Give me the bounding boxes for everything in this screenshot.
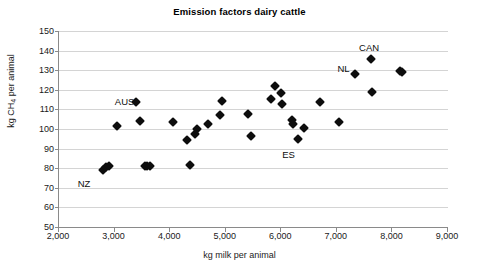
y-axis-tick-mark xyxy=(55,129,59,130)
y-axis-tick-mark xyxy=(55,149,59,150)
gridline xyxy=(59,51,448,52)
data-point xyxy=(182,135,192,145)
data-point xyxy=(217,96,227,106)
y-axis-title-prefix: kg CH xyxy=(6,103,16,128)
gridline xyxy=(59,188,448,189)
y-axis-tick-mark xyxy=(55,90,59,91)
y-axis-tick-label: 130 xyxy=(32,65,54,75)
data-point xyxy=(135,116,145,126)
gridline xyxy=(59,31,448,32)
y-axis-tick-label: 150 xyxy=(32,26,54,36)
gridline xyxy=(59,109,448,110)
gridline xyxy=(59,70,448,71)
y-axis-tick-mark xyxy=(55,109,59,110)
y-axis-tick-mark xyxy=(55,168,59,169)
data-point xyxy=(266,94,276,104)
gridline xyxy=(59,149,448,150)
x-axis-tick-label: 8,000 xyxy=(369,231,413,241)
gridline xyxy=(59,90,448,91)
y-axis-title: kg CH4 per animal xyxy=(6,16,16,166)
y-axis-tick-mark xyxy=(55,70,59,71)
x-axis-tick-label: 2,000 xyxy=(36,231,80,241)
y-axis-title-subscript: 4 xyxy=(10,99,17,103)
y-axis-tick-label: 70 xyxy=(32,183,54,193)
x-axis-tick-label: 3,000 xyxy=(92,231,136,241)
series-annotation-nz: NZ xyxy=(78,177,91,188)
x-axis-tick-label: 6,000 xyxy=(258,231,302,241)
y-axis-tick-label: 90 xyxy=(32,144,54,154)
x-axis-tick-label: 4,000 xyxy=(147,231,191,241)
y-axis-title-suffix: per animal xyxy=(6,54,16,99)
data-point xyxy=(243,109,253,119)
data-point xyxy=(334,117,344,127)
data-point xyxy=(366,54,376,64)
y-axis-tick-label: 110 xyxy=(32,104,54,114)
series-annotation-aus: AUS xyxy=(115,95,135,106)
data-point xyxy=(215,111,225,121)
data-point xyxy=(277,99,287,109)
x-axis-title: kg milk per animal xyxy=(0,250,479,260)
y-axis-tick-label: 80 xyxy=(32,163,54,173)
y-axis-tick-label: 120 xyxy=(32,85,54,95)
x-axis-tick-label: 9,000 xyxy=(425,231,469,241)
gridline xyxy=(59,168,448,169)
plot-area: NZAUSESNLCAN xyxy=(58,31,448,228)
series-annotation-nl: NL xyxy=(337,63,349,74)
y-axis-tick-mark xyxy=(55,51,59,52)
data-point xyxy=(203,119,213,129)
series-annotation-es: ES xyxy=(282,148,295,159)
data-point xyxy=(299,123,309,133)
y-axis-tick-mark xyxy=(55,207,59,208)
y-axis-tick-mark xyxy=(55,31,59,32)
data-point xyxy=(367,87,377,97)
scatter-chart: Emission factors dairy cattle kg CH4 per… xyxy=(0,0,479,274)
y-axis-tick-labels: 5060708090100110120130140150 xyxy=(26,31,54,228)
data-point xyxy=(315,97,325,107)
y-axis-tick-label: 100 xyxy=(32,124,54,134)
gridline xyxy=(59,207,448,208)
y-axis-tick-mark xyxy=(55,188,59,189)
chart-title: Emission factors dairy cattle xyxy=(0,6,479,17)
x-axis-tick-label: 5,000 xyxy=(203,231,247,241)
x-axis-tick-label: 7,000 xyxy=(314,231,358,241)
x-axis-tick-labels: 2,0003,0004,0005,0006,0007,0008,0009,000 xyxy=(58,231,448,245)
data-point xyxy=(246,131,256,141)
y-axis-tick-label: 60 xyxy=(32,202,54,212)
data-point xyxy=(169,117,179,127)
y-axis-tick-label: 140 xyxy=(32,46,54,56)
data-point xyxy=(293,134,303,144)
series-annotation-can: CAN xyxy=(359,41,379,52)
